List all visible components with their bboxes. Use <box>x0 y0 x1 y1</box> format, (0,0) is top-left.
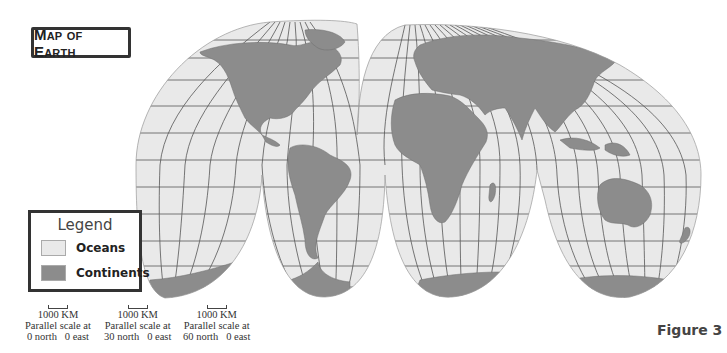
legend-title: Legend <box>31 216 139 234</box>
map-lobes <box>130 15 710 305</box>
scale-distance: 1000 KM <box>25 309 91 320</box>
legend-item-oceans: Oceans <box>41 240 125 256</box>
scale-30-north: 1000 KM Parallel scale at 30 north 0 eas… <box>104 305 171 342</box>
ocean-swatch <box>41 240 66 256</box>
scale-caption: Parallel scale at <box>183 320 250 331</box>
scale-distance: 1000 KM <box>183 309 250 320</box>
scale-coords: 60 north 0 east <box>183 331 250 342</box>
world-map <box>0 0 727 353</box>
legend: Legend Oceans Continents <box>28 210 142 292</box>
legend-item-continents: Continents <box>41 265 150 281</box>
scale-coords: 30 north 0 east <box>104 331 171 342</box>
scale-distance: 1000 KM <box>104 309 171 320</box>
scale-0-north: 1000 KM Parallel scale at 0 north 0 east <box>25 305 91 342</box>
legend-label: Continents <box>76 266 150 280</box>
figure-label: Figure 3 <box>657 322 722 338</box>
legend-label: Oceans <box>76 241 125 255</box>
scale-caption: Parallel scale at <box>104 320 171 331</box>
continent-swatch <box>41 265 66 281</box>
scale-60-north: 1000 KM Parallel scale at 60 north 0 eas… <box>183 305 250 342</box>
scale-coords: 0 north 0 east <box>25 331 91 342</box>
scale-caption: Parallel scale at <box>25 320 91 331</box>
